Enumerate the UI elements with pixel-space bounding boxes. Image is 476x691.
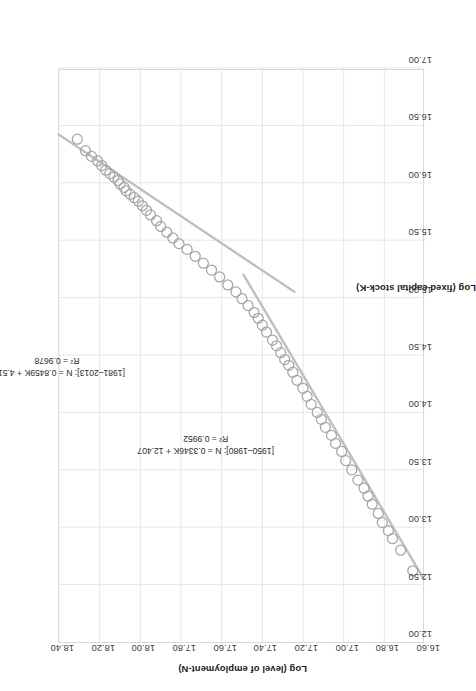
data-point: [353, 475, 363, 485]
y-tick-label: 16.80: [376, 643, 400, 653]
y-tick-label: 17.60: [213, 643, 237, 653]
data-point: [162, 227, 172, 237]
data-point: [215, 272, 225, 282]
data-point: [377, 518, 387, 528]
data-point: [243, 301, 253, 311]
y-tick-label: 18.20: [91, 643, 115, 653]
data-point: [347, 465, 357, 475]
y-tick-label: 18.40: [51, 643, 75, 653]
y-tick-label: 16.60: [417, 643, 441, 653]
x-axis-title: Log (fixed capital stock-K): [356, 283, 476, 294]
data-point: [80, 146, 90, 156]
data-point: [168, 233, 178, 243]
x-tick-label: 14.50: [409, 342, 433, 352]
annotation-1981-2013-equation: [1981–2013]: N = 0.8459K + 4.5116: [0, 368, 125, 378]
annotation-1981-2013-r2: R² = 0.9678: [0, 355, 125, 367]
data-point: [237, 294, 247, 304]
x-tick-label: 16.00: [409, 170, 433, 180]
data-point: [207, 265, 217, 275]
x-tick-label: 17.00: [409, 55, 433, 65]
data-point: [396, 545, 406, 555]
annotation-1981-2013: [1981–2013]: N = 0.8459K + 4.5116 R² = 0…: [0, 355, 125, 379]
data-point: [198, 258, 208, 268]
data-point: [231, 287, 241, 297]
annotation-1950-1980: [1950–1980]: N = 0.3346K + 12.407 R² = 0…: [137, 433, 274, 457]
x-tick-label: 15.50: [409, 227, 433, 237]
y-tick-label: 17.40: [254, 643, 278, 653]
data-point: [190, 251, 200, 261]
y-tick-label: 17.80: [173, 643, 197, 653]
data-point: [72, 134, 82, 144]
annotation-1950-1980-r2: R² = 0.9952: [137, 433, 274, 445]
annotation-1950-1980-equation: [1950–1980]: N = 0.3346K + 12.407: [137, 446, 274, 456]
x-tick-label: 13.50: [409, 457, 433, 467]
x-tick-label: 14.00: [409, 399, 433, 409]
x-tick-label: 16.50: [409, 112, 433, 122]
data-point: [174, 239, 184, 249]
y-axis-title: Log (level of employment-N): [178, 664, 307, 675]
data-point: [341, 456, 351, 466]
x-tick-label: 12.50: [409, 572, 433, 582]
y-tick-label: 17.20: [295, 643, 319, 653]
data-point: [373, 508, 383, 518]
y-tick-label: 17.00: [335, 643, 359, 653]
x-tick-label: 13.00: [409, 514, 433, 524]
x-tick-label: 12.00: [409, 629, 433, 639]
y-tick-label: 18.00: [132, 643, 156, 653]
data-point: [223, 280, 233, 290]
